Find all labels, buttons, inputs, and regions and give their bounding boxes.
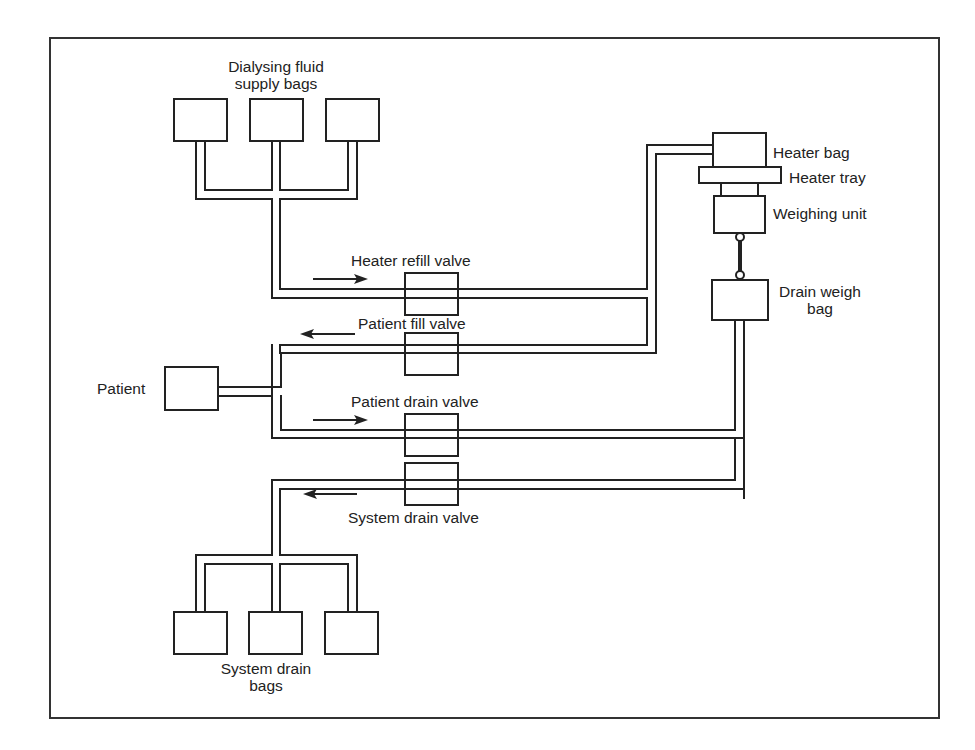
system-drain-bag-3 xyxy=(325,612,378,654)
supply-bags-label-line2: supply bags xyxy=(196,75,356,92)
drain-weigh-bag-label: Drain weigh bag xyxy=(770,283,870,317)
system-drain-valve xyxy=(405,463,458,505)
weighing-unit-label: Weighing unit xyxy=(773,205,867,222)
patient-tube-upper xyxy=(218,345,272,396)
system-drain-bag-1 xyxy=(174,612,227,654)
arrow-right-icon xyxy=(313,274,368,284)
supply-bags-label-line1: Dialysing fluid xyxy=(196,58,356,75)
weighing-unit xyxy=(714,196,765,233)
heater-refill-valve-label: Heater refill valve xyxy=(351,252,471,269)
system-drain-bags xyxy=(174,612,378,654)
patient-box xyxy=(165,367,218,410)
patient-fill-valve-label: Patient fill valve xyxy=(358,315,466,332)
drain-weigh-bag xyxy=(712,280,768,320)
system-drain-bags-label: System drain bags xyxy=(196,660,336,694)
drain-branch-right xyxy=(280,564,348,612)
supply-bags-label: Dialysing fluid supply bags xyxy=(196,58,356,92)
supply-bag-2 xyxy=(250,99,303,141)
arrow-left-icon xyxy=(303,489,357,499)
link-joint-bottom xyxy=(736,271,744,279)
drain-weigh-bag-label-line2: bag xyxy=(770,300,870,317)
system-drain-bag-2 xyxy=(249,612,302,654)
link-joint-top xyxy=(736,233,744,241)
supply-bag-3 xyxy=(326,99,379,141)
heater-tray-support xyxy=(721,183,758,196)
patient-drain-valve-label: Patient drain valve xyxy=(351,393,479,410)
arrow-left-icon xyxy=(300,329,355,339)
heater-bag xyxy=(713,133,766,167)
supply-bags xyxy=(174,99,379,141)
patient-label: Patient xyxy=(97,380,145,397)
system-drain-bags-label-line1: System drain xyxy=(196,660,336,677)
heater-tray-label: Heater tray xyxy=(789,169,866,186)
heater-refill-valve xyxy=(405,273,458,315)
patient-drain-tube-inner xyxy=(281,320,735,430)
supply-bag-1 xyxy=(174,99,227,141)
dialysis-schematic xyxy=(0,0,975,750)
heater-tray xyxy=(699,167,781,183)
patient-drain-valve xyxy=(405,414,458,456)
system-drain-valve-label: System drain valve xyxy=(348,509,479,526)
heater-to-patient-tube xyxy=(218,154,713,387)
drain-weigh-bag-label-line1: Drain weigh xyxy=(770,283,870,300)
arrow-right-icon xyxy=(313,415,368,425)
heater-bag-label: Heater bag xyxy=(773,144,850,161)
drain-branch-left xyxy=(205,564,272,612)
system-drain-bags-label-line2: bags xyxy=(196,677,336,694)
